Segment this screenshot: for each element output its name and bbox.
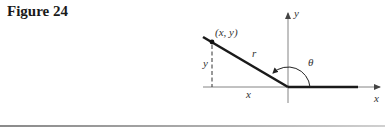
terminal-side	[203, 37, 288, 87]
radius-label: r	[252, 47, 257, 59]
angle-arc	[273, 67, 310, 87]
bottom-divider	[0, 125, 385, 127]
point-marker	[210, 40, 215, 45]
vertical-leg-label: y	[202, 57, 208, 69]
angle-label: θ	[308, 56, 314, 68]
x-axis-label: x	[373, 92, 379, 104]
angle-diagram: (x, y) r y x θ y x	[0, 0, 385, 129]
horizontal-leg-label: x	[245, 88, 251, 100]
y-axis-label: y	[293, 7, 299, 19]
point-label: (x, y)	[215, 26, 238, 39]
